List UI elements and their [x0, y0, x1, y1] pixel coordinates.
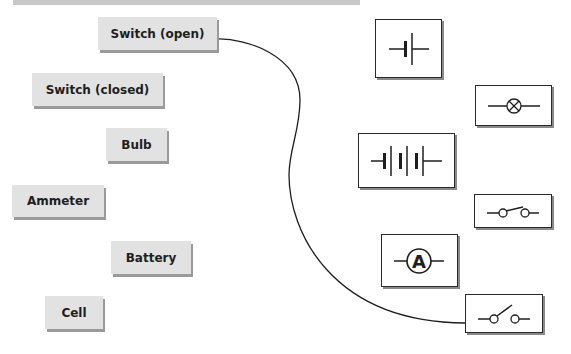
label-switch-open[interactable]: Switch (open) [98, 17, 217, 50]
label-text: Switch (open) [111, 27, 205, 41]
label-bulb[interactable]: Bulb [106, 128, 167, 161]
label-text: Cell [61, 306, 86, 320]
cell-symbol-icon [384, 29, 434, 69]
closed-switch-symbol-icon [485, 201, 541, 221]
ammeter-glyph: A [412, 250, 426, 271]
battery-symbol-icon [369, 143, 445, 179]
label-switch-closed[interactable]: Switch (closed) [32, 73, 163, 106]
label-text: Battery [126, 251, 177, 265]
bulb-symbol-icon [486, 94, 542, 118]
symbol-box-ammeter[interactable]: A [381, 234, 458, 287]
ammeter-symbol-icon: A [392, 243, 448, 279]
label-text: Switch (closed) [46, 83, 150, 97]
symbol-box-open-switch[interactable] [465, 294, 543, 333]
symbol-box-cell[interactable] [375, 19, 442, 78]
label-battery[interactable]: Battery [111, 241, 191, 274]
symbol-box-battery[interactable] [358, 133, 455, 188]
label-cell[interactable]: Cell [45, 296, 103, 329]
symbol-box-closed-switch[interactable] [474, 194, 552, 228]
open-switch-symbol-icon [476, 300, 532, 328]
label-ammeter[interactable]: Ammeter [12, 185, 104, 217]
symbol-box-bulb[interactable] [475, 85, 552, 126]
label-text: Ammeter [27, 194, 89, 208]
label-text: Bulb [121, 138, 151, 152]
top-bar [13, 0, 360, 5]
